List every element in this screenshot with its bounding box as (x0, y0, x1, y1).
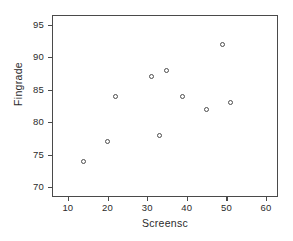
plot-frame (52, 15, 278, 197)
y-tick-label: 95 (14, 19, 44, 30)
x-tick-label: 50 (211, 202, 241, 213)
y-tick-mark (48, 155, 52, 156)
x-tick-label: 30 (132, 202, 162, 213)
x-tick-mark (266, 197, 267, 201)
y-axis-title: Fingrade (12, 39, 24, 129)
y-tick-mark (48, 122, 52, 123)
x-tick-label: 60 (251, 202, 281, 213)
y-tick-label: 75 (14, 149, 44, 160)
x-axis-title: Screensc (52, 217, 278, 229)
y-tick-mark (48, 187, 52, 188)
y-tick-mark (48, 90, 52, 91)
x-tick-label: 20 (93, 202, 123, 213)
x-tick-mark (147, 197, 148, 201)
x-tick-mark (108, 197, 109, 201)
y-tick-mark (48, 25, 52, 26)
y-tick-mark (48, 57, 52, 58)
scatter-plot-figure: 102030405060 707580859095 Screensc Fingr… (0, 0, 293, 241)
x-tick-mark (68, 197, 69, 201)
y-tick-label: 70 (14, 181, 44, 192)
x-tick-mark (226, 197, 227, 201)
x-tick-mark (187, 197, 188, 201)
x-tick-label: 40 (172, 202, 202, 213)
x-tick-label: 10 (53, 202, 83, 213)
